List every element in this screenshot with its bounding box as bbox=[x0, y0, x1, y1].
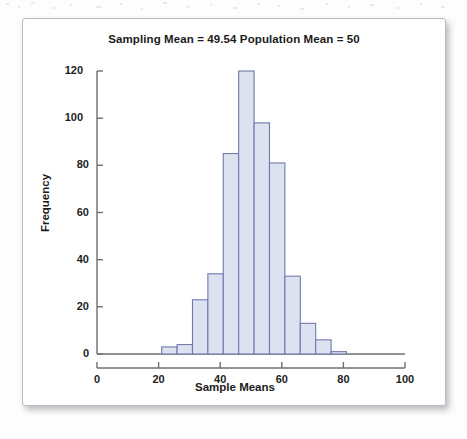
y-axis-ticks bbox=[97, 71, 103, 354]
bar bbox=[269, 163, 284, 354]
bar bbox=[177, 345, 192, 354]
y-tick-label-60: 60 bbox=[61, 206, 89, 218]
figure-frame: Sampling Mean = 49.54 Population Mean = … bbox=[22, 18, 446, 406]
y-axis-title: Frequency bbox=[39, 155, 51, 251]
bar bbox=[285, 276, 300, 354]
y-tick-label-0: 0 bbox=[61, 347, 89, 359]
bar bbox=[331, 352, 346, 354]
bar bbox=[239, 71, 254, 354]
y-tick-label-80: 80 bbox=[61, 158, 89, 170]
bar bbox=[162, 347, 177, 354]
scan-noise bbox=[0, 0, 467, 14]
x-axis bbox=[97, 362, 405, 368]
bar bbox=[208, 274, 223, 354]
y-tick-label-120: 120 bbox=[55, 64, 83, 76]
bar bbox=[316, 340, 331, 354]
x-axis-title: Sample Means bbox=[23, 381, 447, 393]
bar bbox=[192, 300, 207, 354]
bar bbox=[254, 123, 269, 354]
y-tick-label-20: 20 bbox=[61, 300, 89, 312]
bar bbox=[223, 154, 238, 354]
y-tick-label-100: 100 bbox=[55, 111, 83, 123]
histogram-bars bbox=[162, 71, 347, 354]
y-tick-label-40: 40 bbox=[61, 253, 89, 265]
bar bbox=[300, 323, 315, 354]
scanned-page-background: Sampling Mean = 49.54 Population Mean = … bbox=[0, 0, 467, 439]
